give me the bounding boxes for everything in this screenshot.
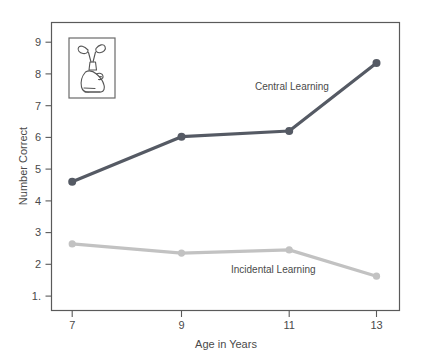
y-tick-label-1: 1.: [32, 290, 41, 302]
y-tick-label-6: 6: [35, 131, 41, 143]
chart-background: [0, 0, 425, 356]
y-tick-label-2: 2: [35, 258, 41, 270]
central-point-age-9: [178, 133, 186, 141]
x-axis-title: Age in Years: [195, 338, 257, 350]
incidental-point-age-7: [69, 240, 76, 247]
central-point-age-7: [68, 178, 76, 186]
inset-illustration: [69, 38, 115, 98]
incidental-point-age-9: [178, 250, 185, 257]
chart-figure: 9 8 7 6 5 4 3 2 1. 7 9 11 13 Age in Year…: [0, 0, 425, 356]
central-point-age-11: [285, 127, 293, 135]
y-tick-label-4: 4: [35, 195, 41, 207]
incidental-learning-label: Incidental Learning: [231, 264, 316, 275]
y-tick-label-5: 5: [35, 163, 41, 175]
y-tick-label-9: 9: [35, 36, 41, 48]
y-tick-label-7: 7: [35, 100, 41, 112]
incidental-point-age-13: [373, 273, 380, 280]
line-chart-svg: 9 8 7 6 5 4 3 2 1. 7 9 11 13 Age in Year…: [0, 0, 425, 356]
y-tick-label-8: 8: [35, 68, 41, 80]
x-tick-label-7: 7: [69, 319, 75, 331]
x-tick-label-13: 13: [370, 319, 382, 331]
y-axis-title: Number Correct: [17, 127, 29, 205]
inset-frame: [69, 38, 115, 98]
central-learning-label: Central Learning: [255, 81, 329, 92]
y-tick-label-3: 3: [35, 226, 41, 238]
central-point-age-13: [373, 59, 381, 67]
x-tick-label-9: 9: [178, 319, 184, 331]
x-tick-label-11: 11: [283, 319, 294, 331]
incidental-point-age-11: [286, 246, 293, 253]
